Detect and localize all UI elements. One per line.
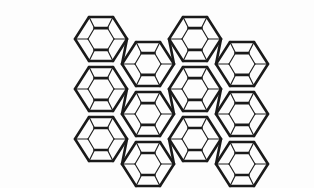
framework-structure-diagram: [0, 0, 314, 188]
cage-lattice: [75, 17, 268, 186]
figure-root: [0, 0, 314, 188]
